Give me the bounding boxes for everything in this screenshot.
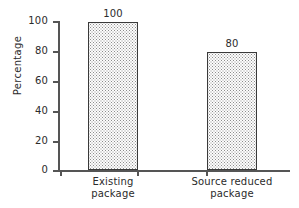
bar-existing-package [88,22,138,170]
x-category-label-2-line1: Source reduced [191,176,272,187]
x-category-label-2-line2: package [167,188,297,200]
x-category-label-1-line2: package [48,188,178,200]
y-tick-label-20: 20 [8,136,48,146]
y-tick-label-100: 100 [8,16,48,26]
bar-value-label-1: 100 [83,8,143,19]
x-category-label-1: Existing package [48,176,178,200]
y-tick-80 [53,51,58,53]
y-tick-40 [53,111,58,113]
y-tick-60 [53,81,58,83]
y-axis-line [58,21,60,171]
y-tick-100 [53,21,58,23]
y-tick-label-60: 60 [8,76,48,86]
bar-chart: Percentage 100 80 60 40 20 0 100 80 Exis… [0,0,299,208]
y-tick-0 [53,170,58,172]
bar-value-label-2: 80 [202,38,262,49]
bar-source-reduced-package [207,52,257,170]
y-tick-label-40: 40 [8,106,48,116]
x-category-label-2: Source reduced package [167,176,297,200]
y-axis-title: Percentage [12,21,23,111]
y-tick-label-80: 80 [8,46,48,56]
x-category-label-1-line1: Existing [92,176,133,187]
y-tick-label-0: 0 [8,165,48,175]
x-axis-line [58,170,290,172]
y-tick-20 [53,141,58,143]
